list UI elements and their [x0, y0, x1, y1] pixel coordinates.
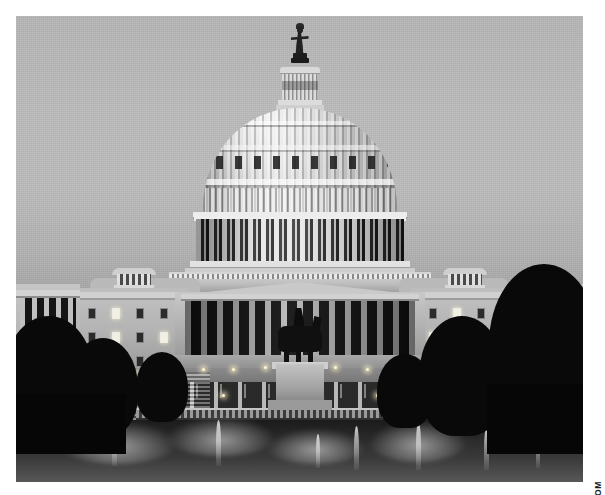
grant-memorial-statue: [270, 304, 330, 408]
lamp-light: [222, 394, 225, 397]
lamp-light: [264, 366, 267, 369]
dome-ring-middle: [203, 145, 397, 150]
lantern-tholos: [278, 67, 322, 111]
statue-head: [297, 26, 303, 33]
capitol-dome: [203, 108, 397, 216]
statue-body: [295, 32, 305, 54]
pedestal-base: [268, 400, 332, 410]
tholos-shadow: [282, 81, 318, 90]
fountain-spray: [166, 416, 276, 456]
peristyle-colonnade: [193, 212, 407, 274]
photo-credit: OHRAN CAM/SHUTTERSTOCK.COM: [593, 481, 603, 495]
lamp-light: [366, 368, 369, 371]
lamp-light: [232, 368, 235, 371]
north-wing-cupola: [112, 268, 156, 288]
capitol-photograph: [16, 16, 583, 482]
fountain-jet: [416, 422, 421, 470]
foreground-shrub-left: [136, 352, 188, 422]
fountain-jet: [216, 420, 221, 466]
statue-of-freedom: [291, 26, 309, 70]
statue-plinth-lower: [291, 58, 309, 63]
pavilion-entablature: [16, 290, 80, 298]
fountain-jet: [316, 434, 320, 468]
dome-lower-band: [203, 188, 397, 214]
dome-dormer-windows: [210, 156, 388, 169]
lamp-light: [334, 366, 337, 369]
dome-base-balustrade: [169, 274, 431, 279]
foreground-mass-left: [16, 394, 126, 454]
foreground-shrub-right: [377, 354, 433, 428]
south-wing-cupola: [443, 268, 487, 288]
portico-entablature: [181, 294, 419, 301]
tholos-cap: [280, 67, 320, 74]
dome-cornice: [203, 179, 397, 185]
lamp-light: [202, 368, 205, 371]
fountain-jet: [354, 426, 359, 470]
peristyle-columns: [196, 219, 404, 261]
foreground-mass-right: [487, 384, 583, 454]
figure-container: OHRAN CAM/SHUTTERSTOCK.COM: [0, 0, 605, 495]
dome-ring-upper: [203, 121, 397, 125]
